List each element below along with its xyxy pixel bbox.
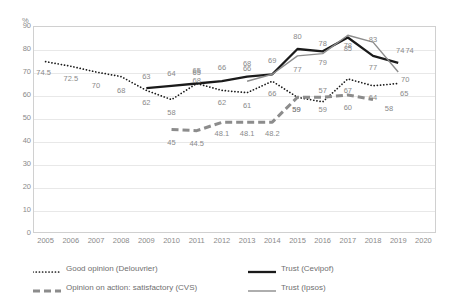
legend-swatch xyxy=(248,263,276,273)
y-axis-tick: 70 xyxy=(5,68,31,76)
x-axis-tick: 2006 xyxy=(62,236,79,245)
x-axis-tick: 2008 xyxy=(113,236,130,245)
x-axis-tick: 2011 xyxy=(189,236,205,245)
y-axis-tick: 50 xyxy=(5,114,31,122)
series-line xyxy=(146,38,398,89)
x-axis-tick: 2015 xyxy=(289,236,306,245)
x-axis-tick: 2020 xyxy=(415,236,432,245)
legend-item[interactable]: Trust (Ipsos) xyxy=(248,281,326,293)
series-line xyxy=(247,35,398,81)
x-axis-tick: 2009 xyxy=(138,236,155,245)
x-axis-tick: 2014 xyxy=(264,236,281,245)
series-layer xyxy=(33,26,436,233)
y-axis-tick: 10 xyxy=(5,206,31,214)
x-axis-tick: 2007 xyxy=(88,236,105,245)
x-axis-tick: 2019 xyxy=(390,236,407,245)
chart-container: % 0102030405060708090 74.572.57068625865… xyxy=(0,0,453,306)
y-axis-tick: 40 xyxy=(5,137,31,145)
legend-swatch xyxy=(33,282,61,292)
legend-label: Opinion on action: satisfactory (CVS) xyxy=(66,283,197,292)
legend-label: Trust (Ipsos) xyxy=(281,283,326,292)
y-axis-tick: 90 xyxy=(5,22,31,30)
legend-label: Good opinion (Delouvrier) xyxy=(66,264,158,273)
legend-item[interactable]: Good opinion (Delouvrier) xyxy=(33,262,158,274)
legend-item[interactable]: Trust (Cevipof) xyxy=(248,262,334,274)
x-axis-tick: 2010 xyxy=(163,236,180,245)
legend-swatch xyxy=(248,282,276,292)
x-axis-tick: 2018 xyxy=(365,236,382,245)
y-axis-tick: 80 xyxy=(5,45,31,53)
legend-item[interactable]: Opinion on action: satisfactory (CVS) xyxy=(33,281,197,293)
legend-swatch xyxy=(33,263,61,273)
x-axis-tick-labels: 2005200620072008200920102011201220132014… xyxy=(33,236,436,250)
x-axis-tick: 2013 xyxy=(239,236,256,245)
legend-label: Trust (Cevipof) xyxy=(281,264,334,273)
x-axis-tick: 2005 xyxy=(37,236,54,245)
y-axis-tick: 0 xyxy=(5,229,31,237)
y-axis-tick: 60 xyxy=(5,91,31,99)
series-line xyxy=(172,95,374,131)
chart-legend: Good opinion (Delouvrier)Trust (Cevipof)… xyxy=(33,262,433,300)
y-axis-tick: 20 xyxy=(5,183,31,191)
y-axis-tick: 30 xyxy=(5,160,31,168)
x-axis-tick: 2012 xyxy=(214,236,231,245)
x-axis-tick: 2017 xyxy=(340,236,357,245)
y-axis-tick-labels: 0102030405060708090 xyxy=(0,26,31,233)
x-axis-tick: 2016 xyxy=(314,236,331,245)
